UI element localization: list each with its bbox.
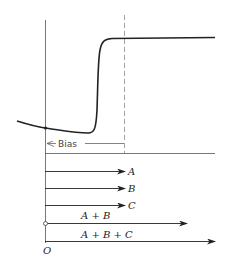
bias-label: Bias bbox=[58, 139, 77, 149]
operating-point-dot bbox=[44, 126, 47, 129]
vector-a-plus-b-label: A + B bbox=[80, 210, 110, 221]
diagram-canvas: Bias A B C A + B A + B + C O bbox=[0, 0, 227, 263]
vector-a-label: A bbox=[127, 166, 135, 177]
vector-a-plus-b-plus-c-label: A + B + C bbox=[80, 229, 133, 240]
open-circle-marker bbox=[44, 222, 48, 226]
origin-label: O bbox=[43, 245, 51, 256]
vector-b-label: B bbox=[127, 183, 135, 194]
vector-c-label: C bbox=[128, 200, 136, 211]
characteristic-curve bbox=[17, 38, 215, 134]
